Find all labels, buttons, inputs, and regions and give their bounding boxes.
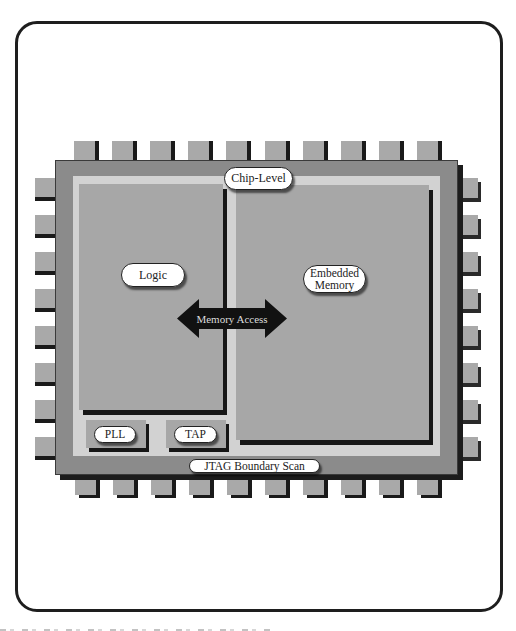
logic-block (79, 184, 223, 410)
pin (341, 474, 362, 495)
pin (35, 437, 56, 456)
pll-label: PLL (94, 426, 136, 443)
logic-label: Logic (121, 263, 185, 287)
pin (379, 474, 400, 495)
pin (151, 474, 172, 495)
embedded-memory-label-line2: Memory (315, 279, 355, 291)
jtag-boundary-scan-label: JTAG Boundary Scan (189, 459, 320, 473)
pin (35, 363, 56, 382)
pin (265, 141, 286, 161)
pin (303, 141, 324, 161)
pin (35, 252, 56, 271)
chip-level-label: Chip-Level (224, 167, 293, 190)
pin (417, 141, 438, 161)
pin (35, 178, 56, 197)
caption-cropped (0, 626, 300, 631)
pin (113, 474, 134, 495)
pin (457, 252, 478, 272)
pin (457, 178, 478, 198)
pin (457, 326, 478, 346)
pin (74, 141, 95, 161)
pin (35, 289, 56, 308)
pin (303, 474, 324, 495)
embedded-memory-label: Embedded Memory (303, 265, 366, 293)
pin (112, 141, 133, 161)
pin (457, 363, 478, 383)
pin (457, 289, 478, 309)
pin (417, 474, 438, 495)
memory-access-label: Memory Access (177, 299, 287, 338)
pin (265, 474, 286, 495)
tap-label: TAP (174, 426, 217, 443)
pin (341, 141, 362, 161)
embedded-memory-label-line1: Embedded (310, 267, 359, 279)
pin (35, 215, 56, 234)
pin (226, 141, 247, 161)
pin (189, 474, 210, 495)
pin (188, 141, 209, 161)
pin (35, 326, 56, 345)
pin (75, 474, 96, 495)
pin (457, 437, 478, 457)
pin (379, 141, 400, 161)
pin (457, 400, 478, 420)
pin (150, 141, 171, 161)
pin (227, 474, 248, 495)
pin (457, 215, 478, 235)
memory-access-arrow: Memory Access (177, 299, 287, 338)
pin (35, 400, 56, 419)
